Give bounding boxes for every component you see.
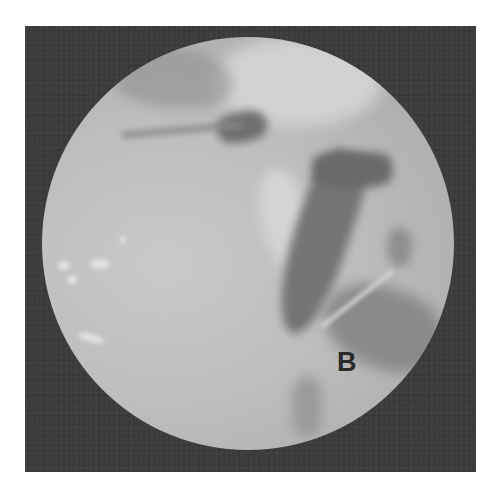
highlight-speck — [90, 259, 110, 269]
lower-shadow-strip — [292, 377, 322, 437]
annotation-label-b: B — [337, 349, 357, 376]
highlight-speck — [120, 237, 126, 243]
highlight-speck — [67, 275, 77, 284]
upper-dark-band — [112, 47, 232, 107]
dark-tendon-top — [312, 152, 392, 187]
highlight-speck — [58, 261, 70, 270]
right-dark-patch — [387, 227, 412, 267]
highlight-speck — [77, 331, 104, 345]
endoscopic-view-circle — [42, 37, 454, 450]
